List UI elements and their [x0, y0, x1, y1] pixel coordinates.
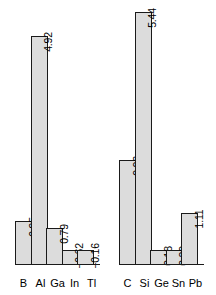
bar-ge[interactable]: 0.18	[150, 250, 167, 265]
baseline-right	[119, 264, 204, 265]
bar-value-wrap: −0.16	[78, 253, 95, 270]
bar-value-label: 1.11	[191, 210, 208, 229]
bar-value-label: 5.44	[144, 8, 161, 28]
bar-value-wrap: 1.11	[182, 216, 199, 233]
bar-sn[interactable]: 0.32	[166, 250, 183, 265]
bar-in[interactable]: −0.62	[62, 250, 79, 265]
bar-value-wrap: 0.79	[47, 231, 64, 248]
bar-column: −0.16	[79, 250, 95, 265]
bar-column: 0.95	[15, 221, 32, 265]
category-label-in: In	[66, 277, 83, 289]
category-label-sn: Sn	[170, 277, 187, 289]
bar-chart: 0.954.920.79−0.62−0.16 2.265.440.180.321…	[0, 0, 216, 295]
bar-si[interactable]: 5.44	[135, 12, 152, 265]
bar-al[interactable]: 4.92	[31, 36, 48, 265]
bar-tl[interactable]: −0.16	[77, 250, 94, 265]
category-label-pb: Pb	[187, 277, 204, 289]
category-label-ge: Ge	[153, 277, 170, 289]
bar-value-wrap: 5.44	[136, 15, 153, 32]
category-label-b: B	[15, 277, 32, 289]
bar-group-13: 0.954.920.79−0.62−0.16	[15, 36, 94, 265]
category-label-tl: Tl	[83, 277, 100, 289]
bar-ga[interactable]: 0.79	[46, 228, 63, 265]
bar-value-label: 0.79	[56, 224, 73, 244]
bar-value-label: 4.92	[40, 32, 57, 52]
category-labels-group-13: BAlGaInTl	[15, 277, 100, 289]
bar-column: 1.11	[183, 213, 199, 265]
bar-c[interactable]: 2.26	[119, 160, 136, 265]
bar-column: 5.44	[136, 12, 152, 265]
category-labels-group-14: CSiGeSnPb	[119, 277, 204, 289]
baseline-left	[15, 264, 100, 265]
bar-column: 2.26	[119, 160, 136, 265]
category-label-al: Al	[32, 277, 49, 289]
bar-pb[interactable]: 1.11	[181, 213, 198, 265]
category-label-si: Si	[136, 277, 153, 289]
category-label-ga: Ga	[49, 277, 66, 289]
bar-group-14: 2.265.440.180.321.11	[119, 12, 198, 265]
bar-b[interactable]: 0.95	[15, 221, 32, 265]
category-label-c: C	[119, 277, 136, 289]
bar-value-wrap: 4.92	[32, 39, 49, 56]
